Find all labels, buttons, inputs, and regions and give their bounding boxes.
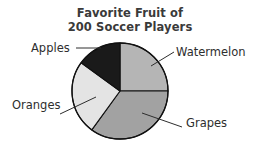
pie-chart-figure: Favorite Fruit of 200 Soccer Players App… <box>0 0 260 165</box>
pie-label-grapes: Grapes <box>186 117 227 130</box>
pie-chart-graphic <box>0 0 260 165</box>
pie-slice-watermelon[interactable] <box>120 43 168 91</box>
pie-label-watermelon: Watermelon <box>176 46 246 59</box>
pie-label-oranges: Oranges <box>12 99 60 112</box>
pie-label-apples: Apples <box>31 42 70 55</box>
